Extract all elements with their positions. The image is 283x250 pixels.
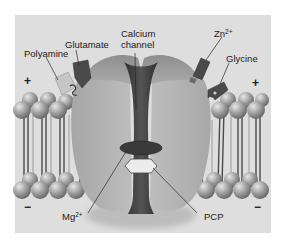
nmda-receptor-diagram: Polyamine Glutamate Calcium channel Zn2+… (0, 0, 283, 250)
label-pcp: PCP (204, 212, 224, 222)
zinc-charge: 2+ (225, 28, 232, 35)
label-calcium-line1: Calcium (121, 29, 155, 39)
label-polyamine: Polyamine (24, 49, 68, 59)
extracellular-charge-left: + (24, 75, 31, 87)
magnesium-symbol: Mg (62, 211, 75, 222)
label-glutamate: Glutamate (65, 40, 109, 50)
label-zinc: Zn2+ (214, 29, 233, 39)
receptor-body (71, 55, 211, 214)
magnesium-charge: 2+ (75, 211, 82, 218)
intracellular-charge-right: − (254, 201, 261, 213)
zinc-symbol: Zn (214, 28, 225, 39)
extracellular-charge-right: + (252, 77, 259, 89)
magnesium-site (120, 141, 162, 155)
label-calcium-line2: channel (121, 40, 154, 50)
intracellular-charge-left: − (24, 201, 31, 213)
label-glycine: Glycine (226, 54, 258, 64)
pcp-site (125, 159, 157, 173)
label-magnesium: Mg2+ (62, 212, 83, 222)
